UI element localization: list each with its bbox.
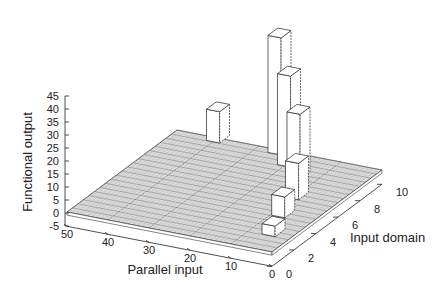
z-tick: 35 — [47, 116, 59, 128]
z-tick: 25 — [47, 142, 59, 154]
x-tick: 30 — [143, 244, 155, 256]
bar — [206, 102, 229, 143]
y-tick: 2 — [308, 252, 314, 264]
y-tick: 0 — [286, 268, 292, 280]
z-tick: 30 — [47, 129, 59, 141]
z-tick: 45 — [47, 90, 59, 102]
z-axis-label: Functional output — [20, 112, 35, 212]
x-tick: 0 — [269, 268, 275, 280]
z-tick: -5 — [49, 220, 59, 232]
z-tick: 10 — [47, 181, 59, 193]
z-tick: 40 — [47, 103, 59, 115]
z-tick: 0 — [53, 207, 59, 219]
y-tick: 10 — [396, 186, 408, 198]
bar — [272, 187, 295, 218]
bar3d-chart: -5051015202530354045010203040500246810 F… — [0, 0, 438, 295]
z-tick: 5 — [53, 194, 59, 206]
x-tick: 50 — [61, 228, 73, 240]
y-tick: 8 — [374, 203, 380, 215]
y-tick: 4 — [330, 236, 336, 248]
x-tick: 10 — [225, 260, 237, 272]
x-axis-label: Parallel input — [127, 262, 203, 277]
z-tick: 15 — [47, 168, 59, 180]
y-axis-label: Input domain — [350, 230, 425, 245]
z-tick: 20 — [47, 155, 59, 167]
x-tick: 40 — [102, 236, 114, 248]
